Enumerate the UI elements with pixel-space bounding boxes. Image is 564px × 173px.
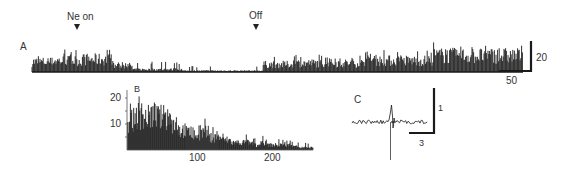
scale-a-vertical-label: 20 [536,53,547,63]
off-label: Off [249,11,262,21]
panel-c-label: C [354,95,361,105]
scale-a-horizontal-label: 50 [506,76,517,86]
b-tick-x200: 200 [264,153,281,163]
scale-c-vertical-label: 1 [438,103,443,113]
b-tick-y20: 20 [110,93,121,103]
b-tick-x100: 100 [189,153,206,163]
off-arrow-icon [253,24,259,30]
b-tick-y10: 10 [110,119,121,129]
ne-on-arrow-icon [74,24,80,30]
panel-a-label: A [20,42,27,52]
scale-c-horizontal-label: 3 [419,138,424,148]
panel-c-scale-bars [409,88,435,134]
ne-on-label: Ne on [67,12,94,22]
panel-b-label: B [134,84,140,94]
panel-b-histogram [128,96,313,150]
panel-a-histogram [32,42,523,72]
figure-canvas [0,0,564,173]
